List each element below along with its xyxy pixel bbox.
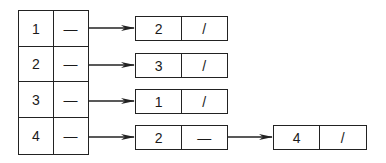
- node-2-1-next: /: [181, 53, 229, 78]
- node-2-1-value: 3: [135, 53, 183, 78]
- head-pointer-2: —: [53, 46, 89, 83]
- head-index-2: 2: [18, 46, 54, 83]
- head-pointer-4: —: [53, 117, 89, 155]
- node-1-1-value: 2: [135, 16, 183, 41]
- head-index-4: 4: [18, 117, 54, 155]
- node-4-1-next: —: [181, 125, 229, 150]
- node-1-1-next: /: [181, 16, 229, 41]
- node-4-2-next: /: [319, 125, 367, 150]
- head-pointer-1: —: [53, 10, 89, 47]
- node-3-1-value: 1: [135, 89, 183, 114]
- head-pointer-3: —: [53, 81, 89, 118]
- head-index-1: 1: [18, 10, 54, 47]
- node-4-2-value: 4: [273, 125, 321, 150]
- head-index-3: 3: [18, 81, 54, 118]
- node-4-1-value: 2: [135, 125, 183, 150]
- node-3-1-next: /: [181, 89, 229, 114]
